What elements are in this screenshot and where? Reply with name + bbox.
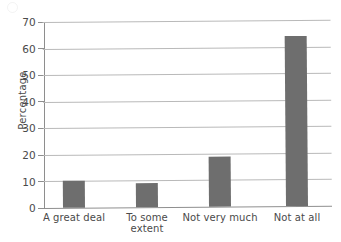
plot-area <box>44 22 332 208</box>
bar-chart: Percentage 70 60 50 40 30 20 10 0 <box>0 0 341 242</box>
y-tick-label: 30 <box>10 123 36 134</box>
y-tick-label: 10 <box>10 177 36 188</box>
y-tick-label: 20 <box>10 150 36 161</box>
x-label-line: Not at all <box>274 212 321 223</box>
bar-a-great-deal <box>63 181 85 208</box>
x-axis-labels: A great deal To some extent Not very muc… <box>44 212 332 242</box>
x-label-line: A great deal <box>43 212 105 223</box>
x-label-not-very-much: Not very much <box>177 212 263 223</box>
x-label-line: extent <box>104 223 190 234</box>
x-label-not-at-all: Not at all <box>254 212 340 223</box>
bar-not-at-all <box>285 36 308 206</box>
y-tick-label: 40 <box>10 97 36 108</box>
y-tick-label: 50 <box>10 70 36 81</box>
gridline-70 <box>43 20 331 23</box>
bar-to-some-extent <box>136 183 158 207</box>
axis-baseline <box>44 206 332 209</box>
gridlines <box>43 20 332 208</box>
y-tick-label: 60 <box>10 44 36 55</box>
bar-not-very-much <box>209 156 231 207</box>
y-axis-tick-labels: 70 60 50 40 30 20 10 0 <box>4 0 36 242</box>
y-tick-label: 70 <box>10 17 36 28</box>
x-label-line: To some <box>126 212 168 223</box>
x-label-line: Not very much <box>182 212 257 223</box>
